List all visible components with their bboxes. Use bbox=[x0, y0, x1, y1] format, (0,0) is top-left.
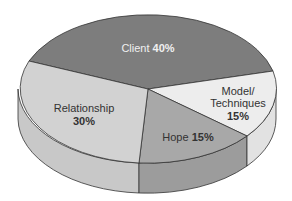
pie-chart: Client 40% Relationship 30% Model/ Techn… bbox=[0, 0, 292, 201]
label-client: Client 40% bbox=[121, 42, 174, 54]
label-relationship-pct: 30% bbox=[73, 115, 95, 127]
label-model-line1: Model/ bbox=[221, 85, 255, 97]
label-relationship-name: Relationship bbox=[54, 102, 115, 114]
label-model-pct: 15% bbox=[227, 110, 249, 122]
label-model-line2: Techniques bbox=[210, 97, 266, 109]
label-hope: Hope 15% bbox=[162, 131, 214, 143]
